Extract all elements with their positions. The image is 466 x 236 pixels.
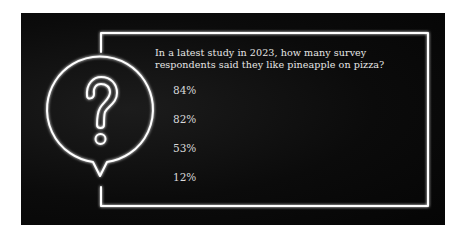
question-mark-icon [87,77,117,144]
question-text: In a latest study in 2023, how many surv… [155,47,415,71]
neon-frame [0,0,466,236]
question-line-1: In a latest study in 2023, how many surv… [155,47,415,59]
answer-option-53[interactable]: 53% [173,142,196,154]
question-line-2: respondents said they like pineapple on … [155,59,415,71]
speech-bubble-icon [47,56,153,176]
answer-option-82[interactable]: 82% [173,113,196,125]
answer-option-12[interactable]: 12% [173,171,196,183]
answer-option-84[interactable]: 84% [173,84,196,96]
